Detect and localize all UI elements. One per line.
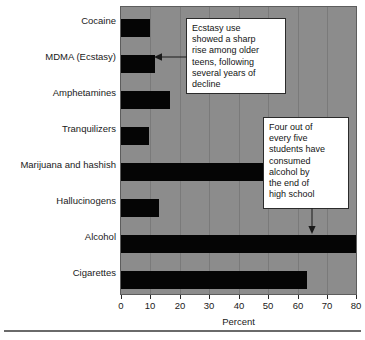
category-label-cocaine: Cocaine (0, 15, 116, 26)
annotation-alcohol-note: Four out of every five students have con… (263, 117, 349, 209)
tick-label-40: 40 (227, 300, 251, 311)
bar-mdma-ecstasy (121, 55, 155, 73)
tick-label-80: 80 (344, 300, 365, 311)
bar-cocaine (121, 19, 150, 37)
category-label-amphetamines: Amphetamines (0, 87, 116, 98)
annotation-line: alcohol by (269, 167, 343, 178)
bar-alcohol (121, 235, 357, 253)
tick-label-60: 60 (286, 300, 310, 311)
category-label-alcohol: Alcohol (0, 231, 116, 242)
tick-label-20: 20 (168, 300, 192, 311)
tick-mark-40 (239, 295, 240, 299)
bar-tranquilizers (121, 127, 149, 145)
tick-mark-20 (180, 295, 181, 299)
annotation-line: Ecstasy use (192, 23, 280, 34)
category-label-tranquilizers: Tranquilizers (0, 123, 116, 134)
annotation-arrow-down-icon (306, 208, 318, 234)
tick-mark-30 (209, 295, 210, 299)
annotation-line: every five (269, 133, 343, 144)
annotation-line: Four out of (269, 122, 343, 133)
bar-marijuana-and-hashish (121, 163, 266, 181)
bar-cigarettes (121, 271, 307, 289)
category-label-marijuana-and-hashish: Marijuana and hashish (0, 159, 116, 170)
tick-mark-10 (150, 295, 151, 299)
annotation-line: consumed (269, 156, 343, 167)
annotation-line: rise among older (192, 45, 280, 56)
bar-amphetamines (121, 91, 170, 109)
tick-label-0: 0 (109, 300, 133, 311)
tick-mark-60 (298, 295, 299, 299)
annotation-ecstasy-note: Ecstasy use showed a sharp rise among ol… (186, 18, 286, 94)
annotation-line: high school (269, 189, 343, 200)
annotation-line: teens, following (192, 57, 280, 68)
bar-chart-figure: Cocaine MDMA (Ecstasy) Amphetamines Tran… (0, 0, 365, 340)
category-label-hallucinogens: Hallucinogens (0, 195, 116, 206)
tick-mark-80 (356, 295, 357, 299)
tick-mark-0 (121, 295, 122, 299)
tick-label-70: 70 (315, 300, 339, 311)
x-axis-title: Percent (120, 316, 357, 327)
tick-mark-50 (268, 295, 269, 299)
bottom-divider (4, 330, 361, 332)
category-label-cigarettes: Cigarettes (0, 267, 116, 278)
tick-label-50: 50 (256, 300, 280, 311)
annotation-line: several years of (192, 68, 280, 79)
tick-mark-70 (327, 295, 328, 299)
annotation-line: decline (192, 79, 280, 90)
annotation-arrow-left-icon (154, 50, 188, 64)
tick-label-10: 10 (138, 300, 162, 311)
tick-label-30: 30 (197, 300, 221, 311)
annotation-line: showed a sharp (192, 34, 280, 45)
annotation-line: students have (269, 144, 343, 155)
annotation-line: the end of (269, 178, 343, 189)
category-label-mdma-ecstasy: MDMA (Ecstasy) (0, 51, 116, 62)
bar-hallucinogens (121, 199, 159, 217)
